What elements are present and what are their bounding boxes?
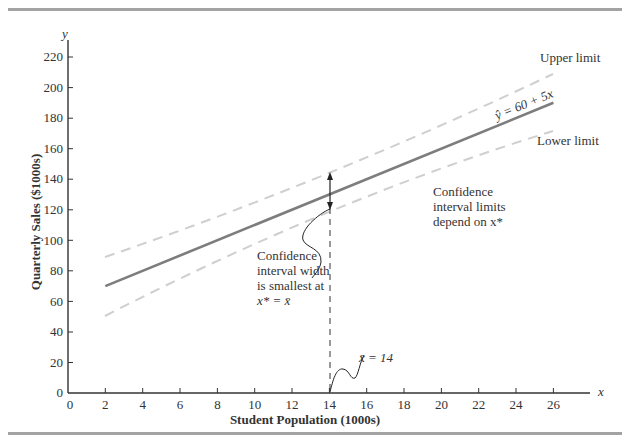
svg-text:Confidence: Confidence [257, 248, 317, 263]
x-ticks [105, 388, 553, 393]
svg-text:220: 220 [44, 49, 64, 64]
upper-limit-curve [105, 74, 553, 257]
svg-text:18: 18 [398, 397, 411, 412]
svg-text:200: 200 [44, 80, 64, 95]
svg-text:0: 0 [57, 385, 64, 400]
svg-text:22: 22 [472, 397, 485, 412]
y-ticks [68, 57, 73, 363]
xbar-label: x̄ = 14 [358, 350, 394, 365]
svg-text:80: 80 [50, 263, 63, 278]
svg-text:12: 12 [286, 397, 299, 412]
svg-text:20: 20 [50, 355, 63, 370]
confidence-interval-chart: y x 0 20 40 60 80 100 120 140 160 180 20… [0, 0, 634, 446]
x-axis-symbol: x [597, 384, 604, 399]
svg-text:0: 0 [67, 397, 74, 412]
lower-limit-label: Lower limit [537, 133, 599, 148]
svg-text:40: 40 [50, 324, 63, 339]
svg-text:is smallest at: is smallest at [257, 278, 325, 293]
svg-text:14: 14 [323, 397, 337, 412]
svg-text:10: 10 [248, 397, 261, 412]
limits-depend-note: Confidence interval limits depend on x* [433, 184, 506, 229]
svg-text:160: 160 [44, 141, 64, 156]
svg-text:16: 16 [360, 397, 374, 412]
svg-text:100: 100 [44, 233, 64, 248]
svg-text:depend on x*: depend on x* [433, 214, 503, 229]
svg-text:60: 60 [50, 294, 63, 309]
svg-text:6: 6 [177, 397, 184, 412]
svg-text:24: 24 [510, 397, 524, 412]
y-axis-symbol: y [60, 26, 68, 41]
upper-limit-label: Upper limit [540, 50, 601, 65]
svg-text:Confidence: Confidence [433, 184, 493, 199]
x-axis-title: Student Population (1000s) [230, 412, 380, 427]
svg-text:2: 2 [102, 397, 109, 412]
bottom-rule [8, 432, 622, 435]
svg-text:interval limits: interval limits [433, 199, 506, 214]
svg-text:20: 20 [435, 397, 448, 412]
svg-text:26: 26 [547, 397, 561, 412]
top-rule [8, 8, 622, 11]
y-axis-title: Quarterly Sales ($1000s) [28, 154, 43, 290]
x-tick-labels: 0 2 4 6 8 10 12 14 16 18 20 22 24 26 [67, 397, 561, 412]
svg-text:4: 4 [139, 397, 146, 412]
width-smallest-note: Confidence interval width is smallest at… [256, 248, 330, 308]
svg-text:interval width: interval width [257, 263, 330, 278]
arrow-down-head-icon [327, 202, 333, 210]
y-tick-labels: 0 20 40 60 80 100 120 140 160 180 200 22… [44, 49, 64, 400]
svg-text:140: 140 [44, 171, 64, 186]
svg-text:8: 8 [214, 397, 221, 412]
svg-text:120: 120 [44, 202, 64, 217]
svg-text:180: 180 [44, 110, 64, 125]
svg-text:x* = x̄: x* = x̄ [256, 293, 291, 308]
